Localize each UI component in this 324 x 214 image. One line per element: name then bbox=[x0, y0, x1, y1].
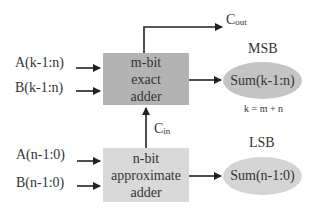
lsb-title: LSB bbox=[249, 136, 275, 150]
exact-adder-line2: exact bbox=[131, 71, 161, 88]
exact-adder-line1: m-bit bbox=[131, 54, 161, 71]
input-b-low: B(n-1:0) bbox=[16, 176, 64, 190]
approx-adder-line3: adder bbox=[130, 184, 161, 201]
equation-label: k = m + n bbox=[244, 104, 283, 114]
msb-sum-ellipse: Sum(k-1:n) bbox=[223, 62, 302, 99]
carry-in-main: C bbox=[154, 121, 163, 136]
exact-adder-line3: adder bbox=[130, 88, 161, 105]
msb-sum-label: Sum(k-1:n) bbox=[230, 73, 295, 89]
input-a-low: A(n-1:0) bbox=[16, 148, 65, 162]
exact-adder-block: m-bit exact adder bbox=[103, 53, 189, 105]
msb-title: MSB bbox=[248, 42, 278, 56]
approximate-adder-block: n-bit approximate adder bbox=[103, 148, 189, 202]
lsb-sum-ellipse: Sum(n-1:0) bbox=[223, 157, 302, 195]
input-a-high: A(k-1:n) bbox=[15, 56, 64, 70]
approx-adder-line2: approximate bbox=[111, 167, 181, 184]
input-b-high: B(k-1:n) bbox=[15, 81, 63, 95]
carry-out-main: C bbox=[226, 12, 235, 27]
approx-adder-line1: n-bit bbox=[133, 150, 159, 167]
carry-in-sub: in bbox=[163, 126, 170, 136]
adder-diagram: A(k-1:n) B(k-1:n) A(n-1:0) B(n-1:0) m-bi… bbox=[0, 0, 324, 214]
carry-in-label: Cin bbox=[154, 122, 170, 136]
carry-out-sub: out bbox=[235, 17, 247, 27]
carry-out-label: Cout bbox=[226, 13, 247, 27]
lsb-sum-label: Sum(n-1:0) bbox=[230, 168, 295, 184]
